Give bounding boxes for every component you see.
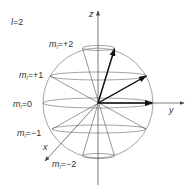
svg-text:ml=−1: ml=−1	[17, 128, 41, 139]
svg-text:ml=−2: ml=−2	[52, 159, 76, 170]
label-m-plus-2: ml=+2	[49, 39, 73, 50]
svg-text:ml=+2: ml=+2	[49, 39, 73, 50]
svg-text:ml=0: ml=0	[13, 99, 32, 110]
svg-text:ml=+1: ml=+1	[19, 70, 43, 81]
label-m-minus-1: ml=−1	[17, 128, 41, 139]
x-axis-label: x	[42, 142, 48, 152]
z-axis-label: z	[88, 9, 94, 19]
label-m-minus-2: ml=−2	[52, 159, 76, 170]
ellipse-m-minus-1	[52, 125, 146, 133]
y-axis-label: y	[168, 105, 174, 115]
angular-momentum-diagram: l=2 z y x ml=+2 ml=+1 ml=0 ml=−1 ml=−2	[0, 0, 195, 192]
label-m-0: ml=0	[13, 99, 32, 110]
label-m-plus-1: ml=+1	[19, 70, 43, 81]
ellipse-m-plus-1	[50, 72, 147, 80]
x-axis	[45, 103, 98, 161]
l-label: l=2	[11, 17, 23, 27]
